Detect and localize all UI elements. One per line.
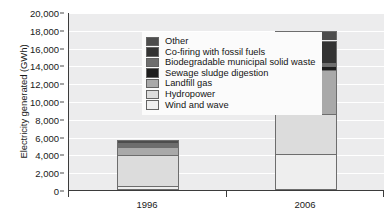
legend-item: Landfill gas [146, 78, 315, 89]
y-axis-tick-mark [60, 13, 64, 14]
y-axis-tick-label: 6,000 [35, 132, 59, 143]
legend-item-label: Wind and wave [165, 100, 229, 111]
y-axis-tick-mark [60, 66, 64, 67]
y-axis-tick-label: 8,000 [35, 114, 59, 125]
legend-swatch-icon [146, 79, 159, 88]
x-axis-separator [68, 191, 69, 197]
bar-segment [117, 146, 179, 148]
legend-swatch-icon [146, 100, 159, 109]
legend-item: Wind and wave [146, 100, 315, 111]
bar-segment [117, 155, 179, 186]
legend-swatch-icon [146, 47, 159, 56]
legend-item-label: Landfill gas [165, 78, 212, 89]
y-axis-tick-label: 0 [54, 186, 59, 197]
x-axis: 19962006 [68, 191, 384, 219]
y-axis-tick-mark [60, 137, 64, 138]
y-axis-tick-labels: 02,0004,0006,0008,00010,00012,00014,0001… [20, 13, 64, 191]
y-axis-tick-label: 20,000 [30, 8, 59, 19]
legend-item-label: Hydropower [165, 89, 215, 100]
legend-item: Co-firing with fossil fuels [146, 47, 315, 58]
y-axis-tick-label: 10,000 [30, 97, 59, 108]
y-axis-tick-mark [60, 48, 64, 49]
bar-segment [117, 140, 179, 143]
bar-segment [117, 144, 179, 145]
y-axis-tick-label: 14,000 [30, 61, 59, 72]
x-axis-separator [226, 191, 227, 197]
y-axis-tick-label: 4,000 [35, 150, 59, 161]
y-axis-tick-mark [60, 102, 64, 103]
y-axis-tick-mark [60, 30, 64, 31]
legend-item-label: Sewage sludge digestion [165, 68, 268, 79]
y-axis-tick-label: 16,000 [30, 43, 59, 54]
x-axis-tick-label-2006: 2006 [294, 199, 315, 210]
legend-item: Sewage sludge digestion [146, 68, 315, 79]
chart-figure: Electricity generated (GWh) 02,0004,0006… [0, 0, 392, 219]
y-axis-tick-mark [60, 84, 64, 85]
bar-segment [117, 143, 179, 144]
legend-item-label: Biodegradable municipal solid waste [165, 57, 315, 68]
legend-swatch-icon [146, 58, 159, 67]
legend-item: Hydropower [146, 89, 315, 100]
y-axis-tick-mark [60, 155, 64, 156]
legend-swatch-icon [146, 90, 159, 99]
y-axis-tick-label: 18,000 [30, 25, 59, 36]
chart-legend: OtherCo-firing with fossil fuelsBiodegra… [142, 32, 322, 115]
y-axis-tick-mark [60, 173, 64, 174]
legend-swatch-icon [146, 37, 159, 46]
legend-item-label: Co-firing with fossil fuels [165, 47, 265, 58]
x-axis-separator [383, 191, 384, 197]
plot-area: OtherCo-firing with fossil fuelsBiodegra… [68, 13, 384, 191]
bar-segment [275, 154, 337, 190]
x-axis-tick-label-1996: 1996 [136, 199, 157, 210]
legend-item: Other [146, 36, 315, 47]
bar-segment [117, 147, 179, 155]
y-axis-tick-mark [60, 119, 64, 120]
gridline [69, 13, 384, 14]
y-axis-tick-label: 12,000 [30, 79, 59, 90]
legend-item: Biodegradable municipal solid waste [146, 57, 315, 68]
legend-swatch-icon [146, 68, 159, 77]
bar-segment [275, 114, 337, 154]
bar-segment [117, 186, 179, 190]
stacked-bar-1996 [117, 140, 179, 190]
legend-item-label: Other [165, 36, 188, 47]
y-axis-tick-label: 2,000 [35, 168, 59, 179]
y-axis-tick-mark [60, 191, 64, 192]
